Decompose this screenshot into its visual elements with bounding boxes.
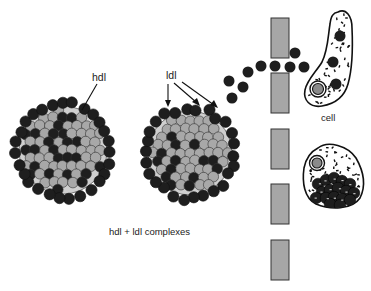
lower-cell	[303, 144, 363, 210]
ldl-particle	[16, 127, 27, 138]
ldl-complex	[140, 104, 239, 206]
ldl-particle	[144, 168, 155, 179]
ldl-arrow-2	[174, 83, 196, 102]
ldl-particle	[184, 181, 195, 192]
hdl-label-group: hdl	[82, 71, 106, 110]
free-ldl-particle	[290, 48, 301, 59]
ldl-particle	[190, 105, 201, 116]
upper-cell-vesicle	[335, 31, 346, 42]
lower-cell-nucleus	[312, 158, 322, 168]
barrier-segment	[271, 18, 289, 58]
ldl-particle	[226, 127, 237, 138]
ldl-particle	[208, 186, 219, 197]
ldl-particle	[222, 168, 233, 179]
ldl-particle	[44, 189, 55, 200]
ldl-particle	[210, 113, 221, 124]
ldl-particle	[103, 135, 114, 146]
ldl-particle	[104, 159, 115, 170]
ldl-particle	[168, 191, 179, 202]
hdl-complex	[10, 97, 116, 205]
free-ldl-particles	[224, 48, 310, 104]
ldl-particle	[179, 195, 190, 206]
barrier-segment	[271, 129, 289, 169]
free-ldl-particle	[227, 93, 238, 104]
ldl-particle	[170, 107, 181, 118]
ldl-particle	[150, 116, 161, 127]
lipoprotein-transport-diagram: hdl ldl hdl + ldl complexes cell	[0, 0, 371, 291]
barrier-segment	[271, 73, 289, 113]
ldl-particle	[141, 157, 152, 168]
ldl-particle	[228, 138, 239, 149]
ldl-particle	[220, 116, 231, 127]
ldl-particle	[99, 126, 110, 137]
ldl-label: ldl	[166, 69, 177, 81]
ldl-particle	[140, 146, 151, 157]
free-ldl-particle	[224, 76, 235, 87]
ldl-particle	[75, 191, 86, 202]
ldl-label-group: ldl	[165, 69, 218, 108]
ldl-arrowhead-1-icon	[165, 100, 171, 107]
upper-cell-vesicle	[331, 79, 342, 90]
free-ldl-particle	[238, 82, 249, 93]
upper-cell-nucleus	[313, 84, 324, 95]
ldl-particle	[94, 176, 105, 187]
ldl-particle	[14, 160, 25, 171]
complexes-caption: hdl + ldl complexes	[109, 226, 190, 237]
ldl-particle	[77, 177, 88, 188]
accumulated-ldl-particle	[334, 199, 346, 211]
free-ldl-particle	[256, 61, 267, 72]
ldl-particle	[47, 100, 58, 111]
cell-label: cell	[321, 112, 335, 123]
barrier-segment	[271, 184, 289, 224]
upper-cell: cell	[305, 11, 353, 123]
ldl-particle	[66, 97, 77, 108]
free-ldl-particle	[299, 62, 310, 73]
upper-cell-vesicle	[328, 57, 339, 68]
ldl-particle	[159, 108, 170, 119]
barrier-segment	[271, 240, 289, 280]
ldl-particle	[10, 148, 21, 159]
ldl-particle	[144, 126, 155, 137]
ldl-particle	[86, 185, 97, 196]
ldl-particle	[228, 151, 239, 162]
ldl-particle	[37, 104, 48, 115]
ldl-particle	[33, 183, 44, 194]
hdl-label: hdl	[92, 71, 106, 83]
free-ldl-particle	[243, 67, 254, 78]
vessel-wall-barrier	[271, 18, 289, 280]
free-ldl-particle	[270, 61, 281, 72]
ldl-particle	[104, 146, 115, 157]
free-ldl-particle	[285, 62, 296, 73]
